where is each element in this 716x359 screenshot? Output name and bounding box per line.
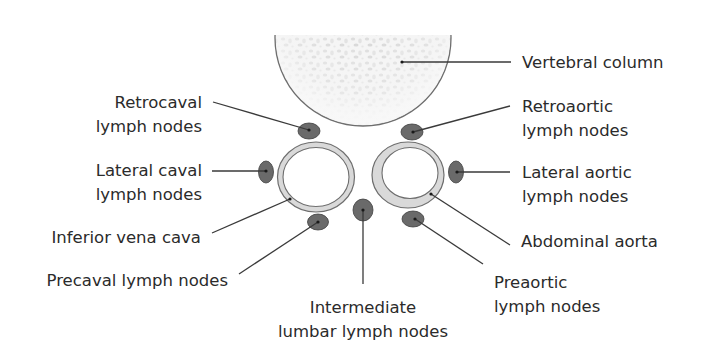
label-lateral-aortic-line2: lymph nodes <box>522 187 628 206</box>
label-preaortic-line1: Preaortic <box>494 273 567 292</box>
label-inferior-vena-cava: Inferior vena cava <box>51 228 201 247</box>
label-intermediate-line1: Intermediate <box>310 298 416 317</box>
label-retroaortic-line2: lymph nodes <box>522 121 628 140</box>
label-precaval: Precaval lymph nodes <box>47 271 229 290</box>
label-lateral-aortic-line1: Lateral aortic <box>522 163 632 182</box>
label-intermediate-line2: lumbar lymph nodes <box>278 322 448 341</box>
label-preaortic-line2: lymph nodes <box>494 297 600 316</box>
lumbar-lymph-nodes-diagram: Vertebral column Retroaortic lymph nodes… <box>0 0 716 359</box>
label-vertebral-column: Vertebral column <box>522 53 664 72</box>
inferior-vena-cava <box>278 142 355 212</box>
label-lateral-caval-line2: lymph nodes <box>96 185 202 204</box>
label-abdominal-aorta: Abdominal aorta <box>521 232 658 251</box>
label-retroaortic-line1: Retroaortic <box>522 97 613 116</box>
label-retrocaval-line1: Retrocaval <box>114 93 202 112</box>
vertebral-body <box>275 0 451 126</box>
abdominal-aorta <box>372 142 444 208</box>
label-retrocaval-line2: lymph nodes <box>96 117 202 136</box>
preaortic-lymph-node <box>402 211 424 227</box>
label-lateral-caval-line1: Lateral caval <box>96 161 202 180</box>
